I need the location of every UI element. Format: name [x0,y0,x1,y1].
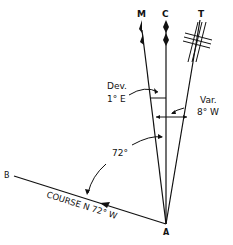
course-line [14,176,166,224]
true-north-cross-icon [183,22,212,62]
point-a-label: A [163,228,170,237]
magnetic-arrowhead-icon [139,20,144,45]
label-compass: C [162,9,169,19]
deviation-value: 1° E [107,94,126,104]
label-magnetic: M [137,9,146,19]
angle-label: 72° [112,148,128,158]
deviation-leader-arrow [129,89,158,95]
angle-course-leader-arrow [88,164,106,193]
variation-title: Var. [200,95,217,105]
magnetic-meridian-line [142,30,166,224]
angle-leader-arrow [132,137,162,145]
compass-arrowhead-icon [163,20,169,46]
label-true: T [198,9,205,19]
compass-course-diagram: M C T Dev. 1° E Var. 8° W 72° B A COURSE… [0,0,233,245]
variation-value: 8° W [197,107,219,117]
point-b-label: B [4,171,10,180]
deviation-title: Dev. [107,81,127,91]
